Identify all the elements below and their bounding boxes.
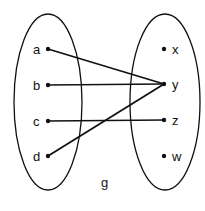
function-mapping-diagram: abcdxyzw g xyxy=(0,0,205,211)
element-dot-b xyxy=(46,83,50,87)
element-dot-d xyxy=(46,154,50,158)
element-label-a: a xyxy=(33,42,41,57)
element-label-x: x xyxy=(172,42,179,57)
function-label: g xyxy=(101,175,108,190)
element-dot-c xyxy=(46,119,50,123)
element-label-y: y xyxy=(172,77,179,92)
mapping-arrows xyxy=(48,49,164,156)
element-label-c: c xyxy=(33,114,40,129)
element-dot-a xyxy=(46,47,50,51)
element-dot-z xyxy=(162,118,166,122)
element-dot-x xyxy=(162,47,166,51)
element-label-b: b xyxy=(33,78,40,93)
element-label-w: w xyxy=(171,149,182,164)
mapping-a-y xyxy=(48,49,164,84)
domain-set-ellipse xyxy=(14,14,82,190)
element-label-z: z xyxy=(172,113,179,128)
element-dot-y xyxy=(162,82,166,86)
mapping-b-y xyxy=(48,84,164,85)
set-elements: abcdxyzw xyxy=(33,42,182,164)
element-label-d: d xyxy=(33,149,40,164)
codomain-set-ellipse xyxy=(130,14,200,190)
element-dot-w xyxy=(162,154,166,158)
